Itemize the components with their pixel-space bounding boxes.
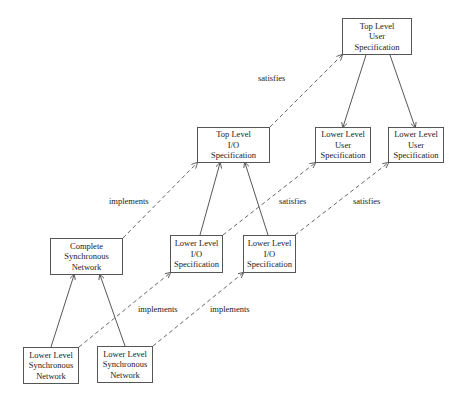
edge-lower-io-1-to-top-io bbox=[200, 163, 220, 235]
edge-label-satisfies-mid-1: satisfies bbox=[279, 196, 306, 206]
edge-label-implements-top: implements bbox=[109, 196, 149, 206]
node-line: Network bbox=[72, 262, 102, 273]
node-line: Top Level bbox=[216, 129, 251, 140]
node-lower-level-synchronous-network-2: Lower Level Synchronous Network bbox=[97, 346, 153, 383]
node-lower-level-user-specification-2: Lower Level User Specification bbox=[388, 127, 444, 163]
node-line: Lower Level bbox=[175, 238, 219, 249]
node-line: Synchronous bbox=[103, 359, 147, 370]
edge-label-satisfies-mid-2: satisfies bbox=[353, 196, 380, 206]
node-line: Complete bbox=[70, 241, 103, 252]
node-line: Lower Level bbox=[29, 350, 73, 361]
edge-satisfies-top bbox=[270, 55, 342, 127]
node-line: Lower Level bbox=[248, 238, 292, 249]
node-line: I/O bbox=[191, 249, 202, 260]
node-line: Synchronous bbox=[64, 251, 108, 262]
edge-label-implements-low-2: implements bbox=[210, 304, 250, 314]
node-line: Specification bbox=[355, 42, 400, 53]
node-complete-synchronous-network: Complete Synchronous Network bbox=[50, 238, 123, 275]
node-line: Network bbox=[110, 370, 140, 381]
node-line: User bbox=[335, 140, 351, 151]
node-lower-level-user-specification-1: Lower Level User Specification bbox=[315, 127, 371, 163]
node-line: Specification bbox=[211, 150, 256, 161]
node-line: Specification bbox=[321, 150, 366, 161]
edge-label-satisfies-top: satisfies bbox=[258, 73, 285, 83]
edge-lower-sync-2-to-complete-sync bbox=[100, 275, 125, 346]
node-line: I/O bbox=[264, 249, 275, 260]
edge-top-user-to-lower-user-2 bbox=[390, 55, 415, 127]
node-line: User bbox=[408, 140, 424, 151]
node-line: Specification bbox=[174, 259, 219, 270]
edge-lower-io-2-to-top-io bbox=[245, 163, 268, 235]
node-line: User bbox=[369, 31, 385, 42]
node-line: Synchronous bbox=[29, 360, 73, 371]
edge-label-implements-low-1: implements bbox=[138, 304, 178, 314]
node-lower-level-io-specification-1: Lower Level I/O Specification bbox=[170, 235, 223, 273]
node-line: Specification bbox=[394, 150, 439, 161]
node-lower-level-io-specification-2: Lower Level I/O Specification bbox=[243, 235, 296, 273]
edge-top-user-to-lower-user-1 bbox=[343, 55, 366, 127]
node-line: Lower Level bbox=[321, 129, 365, 140]
node-line: Network bbox=[36, 371, 66, 382]
node-line: Specification bbox=[247, 259, 292, 270]
node-line: I/O bbox=[228, 140, 239, 151]
edge-lower-sync-1-to-complete-sync bbox=[51, 275, 74, 347]
node-top-level-user-specification: Top Level User Specification bbox=[342, 18, 412, 55]
node-line: Lower Level bbox=[103, 349, 147, 360]
node-lower-level-synchronous-network-1: Lower Level Synchronous Network bbox=[23, 347, 79, 384]
node-line: Lower Level bbox=[394, 129, 438, 140]
node-line: Top Level bbox=[360, 21, 395, 32]
node-top-level-io-specification: Top Level I/O Specification bbox=[197, 127, 270, 163]
